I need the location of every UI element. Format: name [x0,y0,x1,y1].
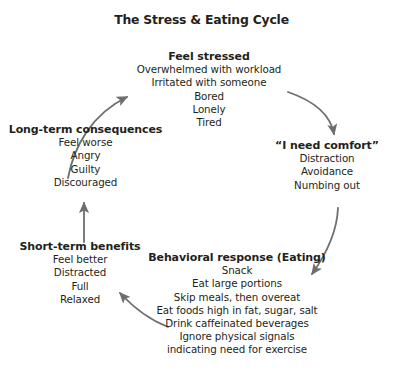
node-item: Guilty [8,163,163,176]
node-i-need-comfort: “I need comfort” Distraction Avoidance N… [252,139,402,192]
node-title: Long-term consequences [8,123,163,136]
node-item: Discouraged [8,176,163,189]
node-item: Irritated with someone [109,76,309,89]
node-item: Relaxed [0,293,160,306]
node-item: Drink caffeinated beverages [112,317,362,330]
node-title: Short-term benefits [0,240,160,253]
node-feel-stressed: Feel stressed Overwhelmed with workload … [109,50,309,129]
node-item: Lonely [109,103,309,116]
node-short-term-benefits: Short-term benefits Feel better Distract… [0,240,160,306]
page-title: The Stress & Eating Cycle [0,12,403,27]
node-item: Overwhelmed with workload [109,63,309,76]
node-item: Feel worse [8,136,163,149]
node-item: Avoidance [252,165,402,178]
node-item: Angry [8,149,163,162]
node-title: “I need comfort” [252,139,402,152]
node-long-term-consequences: Long-term consequences Feel worse Angry … [8,123,163,189]
stress-eating-cycle-diagram: The Stress & Eating Cycle Feel stressed … [0,0,403,372]
node-item: Feel better [0,253,160,266]
node-item: Numbing out [252,179,402,192]
node-item: Full [0,280,160,293]
node-item: indicating need for exercise [112,343,362,356]
node-item: Distracted [0,266,160,279]
node-item: Distraction [252,152,402,165]
node-item: Bored [109,90,309,103]
node-title: Feel stressed [109,50,309,63]
node-item: Ignore physical signals [112,330,362,343]
